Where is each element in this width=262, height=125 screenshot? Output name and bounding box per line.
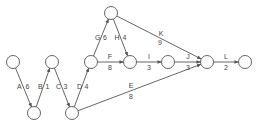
node-1 [7, 56, 20, 69]
edge-b-activity: B [38, 83, 43, 90]
node-5 [85, 56, 98, 69]
edge-k-duration: 9 [158, 39, 162, 46]
node-3 [46, 56, 59, 69]
edge-a-duration: 6 [26, 83, 30, 90]
edge-e-activity: E [129, 82, 134, 89]
node-6 [105, 7, 118, 20]
node-9 [201, 56, 214, 69]
edge-f-duration: 8 [108, 64, 112, 71]
edge-c-duration: 3 [64, 83, 68, 90]
edge-j-activity: J [186, 53, 190, 60]
node-8 [162, 56, 175, 69]
edge-e-duration: 8 [129, 93, 133, 100]
edge-d-duration: 4 [85, 83, 89, 90]
network-diagram: A 6 B 1 C 3 D 4 G 6 H 4 F 8 I 3 J 3 K 9 … [0, 0, 262, 125]
edge-l-duration: 2 [224, 64, 228, 71]
edge-g-duration: 6 [103, 34, 107, 41]
edge-g-activity: G [95, 34, 100, 41]
edge-h-activity: H [115, 34, 120, 41]
node-2 [28, 107, 41, 120]
edge-i-duration: 3 [147, 64, 151, 71]
node-4 [66, 107, 79, 120]
edge-b-duration: 1 [46, 83, 50, 90]
node-7 [124, 56, 137, 69]
nodes [7, 7, 252, 120]
edge-f-activity: F [108, 53, 112, 60]
edge-j-duration: 3 [186, 64, 190, 71]
edge-k-activity: K [159, 30, 164, 37]
edge-h-duration: 4 [123, 34, 127, 41]
edge-a-activity: A [17, 83, 22, 90]
edge-d-activity: D [77, 83, 82, 90]
edge-l-activity: L [224, 53, 228, 60]
edge-c-activity: C [56, 83, 61, 90]
edge-i-activity: I [148, 53, 150, 60]
edge-e-arrow [78, 64, 201, 110]
node-10 [239, 56, 252, 69]
